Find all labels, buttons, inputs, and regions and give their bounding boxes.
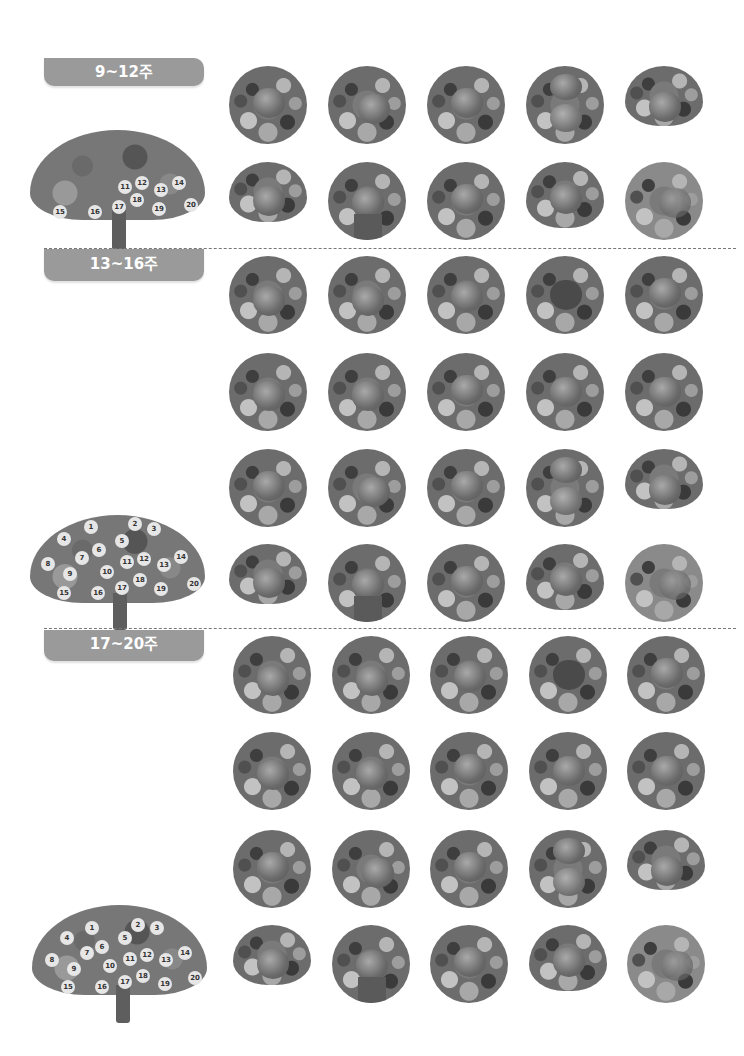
fruit-photo-20: [625, 544, 703, 622]
fruit-photo-11: [233, 830, 311, 908]
tree-marker-12: 12: [140, 948, 154, 962]
tree-marker-19: 19: [158, 977, 172, 991]
fruit-photo-4: [526, 66, 604, 144]
tree-marker-11: 11: [120, 555, 134, 569]
tree-marker-9: 9: [67, 962, 81, 976]
tree-marker-11: 11: [123, 952, 137, 966]
tree-marker-7: 7: [75, 551, 89, 565]
tree-marker-1: 1: [84, 520, 98, 534]
tree-marker-20: 20: [188, 971, 202, 985]
section-label-13-16: 13~16주: [44, 249, 204, 281]
fruit-photo-10: [625, 353, 703, 431]
tree-marker-2: 2: [131, 918, 145, 932]
fruit-photo-14: [526, 449, 604, 527]
tree-marker-17: 17: [115, 581, 129, 595]
tree-marker-14: 14: [174, 550, 188, 564]
fruit-photo-1: [229, 256, 307, 334]
tree-marker-5: 5: [118, 931, 132, 945]
tree-marker-14: 14: [172, 176, 186, 190]
tree-marker-13: 13: [159, 953, 173, 967]
tree-marker-16: 16: [95, 980, 109, 994]
fruit-photo-4: [529, 636, 607, 714]
tree-illustration-13-16: 1 2 3 4 5 6 7 8 9 10 11 12 13 14 15 16 1…: [30, 515, 210, 630]
section-label-9-12: 9~12주: [44, 58, 204, 86]
tree-marker-18: 18: [136, 969, 150, 983]
tree-marker-12: 12: [135, 176, 149, 190]
section-label-17-20: 17~20주: [44, 630, 204, 661]
fruit-photo-8: [427, 162, 505, 240]
tree-marker-3: 3: [147, 522, 161, 536]
tree-marker-10: 10: [100, 565, 114, 579]
tree-marker-14: 14: [178, 946, 192, 960]
tree-marker-1: 1: [85, 921, 99, 935]
fruit-photo-7: [332, 732, 410, 810]
tree-marker-15: 15: [61, 980, 75, 994]
fruit-photo-13: [430, 830, 508, 908]
tree-marker-13: 13: [157, 558, 171, 572]
fruit-photo-6: [229, 353, 307, 431]
tree-marker-5: 5: [115, 534, 129, 548]
fruit-photo-16: [233, 925, 311, 985]
tree-marker-7: 7: [80, 946, 94, 960]
fruit-photo-6: [233, 732, 311, 810]
fruit-photo-8: [430, 732, 508, 810]
fruit-photo-12: [328, 449, 406, 527]
tree-marker-15: 15: [57, 586, 71, 600]
fruit-photo-18: [427, 544, 505, 622]
fruit-photo-1: [233, 636, 311, 714]
fruit-photo-5: [625, 256, 703, 334]
tree-marker-10: 10: [103, 959, 117, 973]
tree-marker-16: 16: [91, 586, 105, 600]
fruit-photo-2: [328, 256, 406, 334]
fruit-photo-20: [627, 925, 705, 1003]
tree-illustration-17-20: 1 2 3 4 5 6 7 8 9 10 11 12 13 14 15 16 1…: [32, 905, 212, 1023]
fruit-photo-9: [526, 162, 604, 228]
fruit-photo-4: [526, 256, 604, 334]
fruit-photo-7: [328, 353, 406, 431]
tree-marker-2: 2: [128, 517, 142, 531]
tree-marker-8: 8: [45, 953, 59, 967]
tree-marker-15: 15: [53, 205, 67, 219]
tree-illustration-9-12: 11 12 13 14 15 16 17 18 19 20: [30, 130, 210, 250]
fruit-photo-15: [625, 449, 703, 509]
fruit-photo-3: [430, 636, 508, 714]
fruit-photo-2: [328, 66, 406, 144]
fruit-photo-3: [427, 66, 505, 144]
fruit-photo-5: [625, 66, 703, 126]
tree-marker-8: 8: [41, 557, 55, 571]
section-divider: [44, 628, 736, 629]
fruit-photo-10: [625, 162, 703, 240]
tree-marker-6: 6: [95, 940, 109, 954]
fruit-photo-14: [529, 830, 607, 908]
fruit-photo-9: [526, 353, 604, 431]
tree-marker-4: 4: [60, 931, 74, 945]
tree-marker-4: 4: [57, 532, 71, 546]
tree-marker-9: 9: [63, 567, 77, 581]
fruit-photo-11: [229, 449, 307, 527]
tree-marker-12: 12: [137, 552, 151, 566]
fruit-photo-3: [427, 256, 505, 334]
tree-marker-19: 19: [152, 202, 166, 216]
fruit-photo-15: [627, 830, 705, 890]
tree-marker-17: 17: [112, 200, 126, 214]
tree-marker-16: 16: [88, 205, 102, 219]
tree-marker-18: 18: [130, 193, 144, 207]
tree-marker-20: 20: [184, 198, 198, 212]
fruit-photo-19: [526, 544, 604, 610]
fruit-photo-6: [229, 162, 307, 222]
tree-marker-17: 17: [118, 975, 132, 989]
fruit-photo-13: [427, 449, 505, 527]
fruit-photo-5: [627, 636, 705, 714]
fruit-photo-12: [332, 830, 410, 908]
tree-marker-13: 13: [154, 183, 168, 197]
fruit-photo-16: [229, 544, 307, 604]
fruit-photo-19: [529, 925, 607, 991]
tree-marker-11: 11: [118, 180, 132, 194]
fruit-photo-8: [427, 353, 505, 431]
tree-marker-18: 18: [133, 573, 147, 587]
tree-marker-6: 6: [92, 543, 106, 557]
fruit-photo-17: [328, 544, 406, 622]
fruit-photo-17: [332, 925, 410, 1003]
fruit-photo-18: [430, 925, 508, 1003]
tree-marker-3: 3: [150, 921, 164, 935]
